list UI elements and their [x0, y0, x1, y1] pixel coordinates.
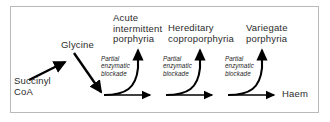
blockade-label-3: Partial enzymatic blockade — [225, 55, 254, 77]
disease-label-acute-intermittent-porphyria: Acute intermittent porphyria — [113, 13, 162, 45]
disease-label-variegate-porphyria: Variegate porphyria — [246, 23, 288, 44]
blockade-label-1: Partial enzymatic blockade — [101, 55, 130, 77]
node-label-succinyl-coa: Succinyl CoA — [14, 76, 51, 97]
node-label-glycine: Glycine — [61, 40, 94, 51]
blockade-label-2: Partial enzymatic blockade — [163, 55, 192, 77]
disease-label-hereditary-coproporphyria: Hereditary coproporphyria — [168, 23, 234, 44]
arrow-glycine-to-pathway — [74, 53, 101, 92]
porphyria-pathway-figure: Succinyl CoA Glycine Haem Acute intermit… — [0, 0, 330, 122]
node-label-haem: Haem — [282, 89, 308, 100]
